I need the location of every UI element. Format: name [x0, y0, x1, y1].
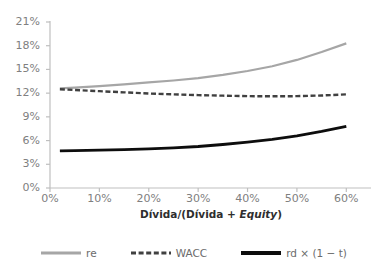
- chart-container: 21%18%15%12%9%6%3%0% 0%10%20%30%40%50%60…: [0, 0, 388, 268]
- x-axis-title: Dívida/(Dívida + Equity): [50, 208, 372, 220]
- legend-line-icon: [241, 249, 281, 257]
- series-line-re: [60, 43, 346, 88]
- legend-item[interactable]: WACC: [131, 248, 207, 259]
- legend-item[interactable]: rd × (1 − t): [241, 248, 347, 259]
- axis-lines: [46, 21, 371, 192]
- plot-area: [0, 0, 388, 268]
- x-axis-title-part3: ): [277, 208, 282, 220]
- legend-line-icon: [41, 249, 81, 257]
- series-lines: [60, 43, 346, 151]
- x-axis-title-part1: Dívida/(Dívida +: [140, 208, 239, 220]
- x-axis-title-part2: Equity: [240, 208, 278, 220]
- legend-line-icon: [131, 249, 171, 257]
- legend-label: rd × (1 − t): [286, 248, 347, 259]
- series-line-wacc: [60, 89, 346, 96]
- legend-item[interactable]: re: [41, 248, 97, 259]
- legend-label: WACC: [176, 248, 207, 259]
- series-line-rd-1-t-: [60, 126, 346, 151]
- legend-label: re: [86, 248, 97, 259]
- chart-legend: reWACCrd × (1 − t): [0, 243, 388, 263]
